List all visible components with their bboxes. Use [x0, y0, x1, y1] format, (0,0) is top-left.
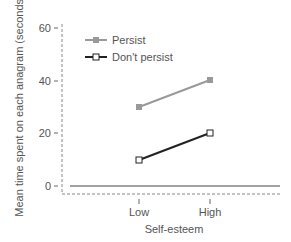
legend-persist-marker-icon — [93, 37, 99, 43]
x-axis-label: Self-esteem — [145, 223, 204, 235]
y-axis-label: Mean time spent on each anagram (seconds… — [13, 0, 25, 217]
dont-persist-marker-low — [136, 157, 142, 163]
legend-item-persist: Persist — [85, 34, 146, 46]
dont-persist-marker-high — [207, 130, 213, 136]
legend-dont-persist-marker-icon — [93, 54, 99, 60]
legend-persist-label: Persist — [112, 34, 146, 46]
x-tick-label-high: High — [199, 206, 222, 218]
y-tick-label-40: 40 — [39, 75, 51, 87]
y-tick-label-0: 0 — [45, 180, 51, 192]
y-ticks: 60 40 20 0 — [39, 22, 58, 192]
y-tick-label-60: 60 — [39, 22, 51, 34]
x-tick-label-low: Low — [129, 206, 149, 218]
persist-marker-high — [207, 77, 213, 83]
x-ticks: Low High — [129, 199, 221, 218]
series-persist — [136, 77, 213, 110]
series-dont-persist — [136, 130, 213, 163]
line-chart: Mean time spent on each anagram (seconds… — [0, 0, 291, 242]
y-tick-label-20: 20 — [39, 127, 51, 139]
legend: Persist Don't persist — [85, 34, 173, 63]
legend-dont-persist-label: Don't persist — [112, 51, 173, 63]
legend-item-dont-persist: Don't persist — [85, 51, 173, 63]
persist-marker-low — [136, 104, 142, 110]
